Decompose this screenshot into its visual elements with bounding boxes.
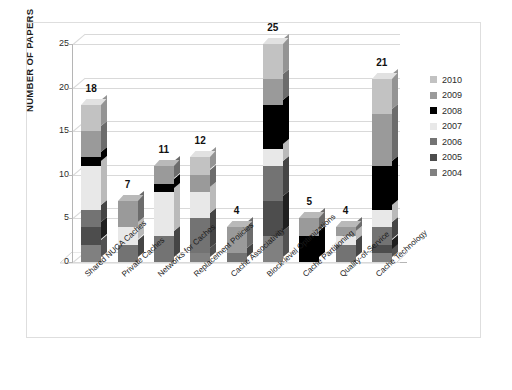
- bar-segment-2008[interactable]: [154, 184, 174, 193]
- bar-column[interactable]: 4: [336, 44, 356, 262]
- bar-total-label: 25: [254, 22, 292, 33]
- bar-segment-side: [392, 156, 398, 205]
- bar-segment-2006[interactable]: [263, 166, 283, 201]
- bar-segment-2010[interactable]: [81, 105, 101, 131]
- bar-segment-side: [283, 156, 289, 196]
- legend-swatch-icon: [430, 76, 437, 83]
- bar-segment-side: [283, 191, 289, 231]
- bar-column[interactable]: 11: [154, 44, 174, 262]
- bar-segment-2009[interactable]: [154, 166, 174, 183]
- legend-label: 2007: [442, 121, 462, 131]
- legend-item-2010[interactable]: 2010: [430, 72, 490, 88]
- legend-item-2007[interactable]: 2007: [430, 119, 490, 135]
- bar-segment-2007[interactable]: [154, 192, 174, 236]
- bar-total-label: 5: [290, 196, 328, 207]
- bar-segment-2007[interactable]: [81, 166, 101, 210]
- legend-item-2005[interactable]: 2005: [430, 150, 490, 166]
- legend-swatch-icon: [430, 138, 437, 145]
- bar-segment-2010[interactable]: [263, 44, 283, 79]
- bar-column[interactable]: 21: [372, 44, 392, 262]
- gridline-back-25: [85, 34, 400, 35]
- legend-label: 2004: [442, 168, 462, 178]
- legend-label: 2006: [442, 137, 462, 147]
- legend-swatch-icon: [430, 123, 437, 130]
- bar-segment-side: [283, 95, 289, 144]
- bar-segment-side: [392, 104, 398, 161]
- legend-item-2006[interactable]: 2006: [430, 134, 490, 150]
- bar-segment-2010[interactable]: [372, 79, 392, 114]
- bar-column[interactable]: 18: [81, 44, 101, 262]
- legend-swatch-icon: [430, 154, 437, 161]
- legend-item-2008[interactable]: 2008: [430, 103, 490, 119]
- legend-swatch-icon: [430, 92, 437, 99]
- stacked-bar-chart: 18711124255421 2520151050 NUMBER OF PAPE…: [0, 0, 512, 390]
- bar-segment-2005[interactable]: [81, 227, 101, 244]
- bar-total-label: 11: [145, 144, 183, 155]
- legend-label: 2008: [442, 106, 462, 116]
- legend-swatch-icon: [430, 169, 437, 176]
- bar-segment-2009[interactable]: [190, 175, 210, 192]
- bar-segment-2010[interactable]: [190, 157, 210, 174]
- bar-segment-2009[interactable]: [263, 79, 283, 105]
- legend-item-2009[interactable]: 2009: [430, 88, 490, 104]
- bar-segment-side: [174, 182, 180, 231]
- legend-label: 2010: [442, 75, 462, 85]
- chart-legend: 2010200920082007200620052004: [430, 72, 490, 181]
- bar-segment-2008[interactable]: [372, 166, 392, 210]
- bar-segment-side: [283, 69, 289, 100]
- bar-segment-side: [101, 121, 107, 152]
- bar-segment-2006[interactable]: [81, 210, 101, 227]
- bar-total-label: 18: [72, 83, 110, 94]
- bar-segment-2007[interactable]: [190, 192, 210, 218]
- bar-total-label: 12: [181, 135, 219, 146]
- bar-total-label: 21: [363, 57, 401, 68]
- bar-segment-2009[interactable]: [81, 131, 101, 157]
- legend-swatch-icon: [430, 107, 437, 114]
- bar-total-label: 7: [109, 179, 147, 190]
- bar-segment-side: [101, 156, 107, 205]
- bar-total-label: 4: [218, 205, 256, 216]
- legend-label: 2009: [442, 90, 462, 100]
- bar-segment-2008[interactable]: [263, 105, 283, 149]
- y-axis-title: NUMBER OF PAPERS: [24, 9, 35, 112]
- bar-segment-2009[interactable]: [118, 201, 138, 227]
- bar-segment-2008[interactable]: [81, 157, 101, 166]
- bar-segment-2009[interactable]: [372, 114, 392, 166]
- legend-item-2004[interactable]: 2004: [430, 165, 490, 181]
- bar-segment-side: [210, 182, 216, 213]
- bar-segment-2007[interactable]: [263, 149, 283, 166]
- legend-label: 2005: [442, 152, 462, 162]
- bar-segment-2007[interactable]: [372, 210, 392, 227]
